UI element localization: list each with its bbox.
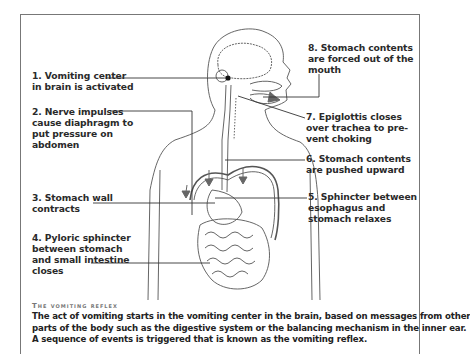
- label-6-contents-pushed-upward: 6. Stomach contents are pushed upward: [306, 153, 411, 175]
- label-line: 4. Pyloric sphincter: [32, 232, 131, 243]
- label-line: between stomach: [32, 243, 131, 254]
- label-line: in brain is activated: [32, 81, 133, 92]
- vomiting-center-dot: [225, 75, 230, 80]
- label-line: and small intestine: [32, 254, 131, 265]
- label-4-pyloric-sphincter: 4. Pyloric sphincter between stomach and…: [32, 232, 131, 276]
- caption-body: The act of vomiting starts in the vomiti…: [32, 311, 417, 346]
- label-7-epiglottis: 7. Epiglottis closes over trachea to pre…: [306, 111, 408, 144]
- caption-line: parts of the body such as the digestive …: [32, 323, 417, 335]
- label-line: cause diaphragm to: [32, 117, 133, 128]
- label-line: over trachea to pre-: [306, 122, 408, 133]
- label-line: esophagus and: [308, 202, 417, 213]
- caption-line: The act of vomiting starts in the vomiti…: [32, 311, 417, 323]
- label-line: 5. Sphincter between: [308, 191, 417, 202]
- label-line: contracts: [32, 203, 113, 214]
- label-3-stomach-wall: 3. Stomach wall contracts: [32, 192, 113, 214]
- caption-heading: The vomiting reflex: [32, 302, 118, 310]
- label-line: 3. Stomach wall: [32, 192, 113, 203]
- label-line: mouth: [308, 64, 413, 75]
- label-5-esophageal-sphincter: 5. Sphincter between esophagus and stoma…: [308, 191, 417, 224]
- label-line: vent choking: [306, 133, 408, 144]
- caption-line: A sequence of events is triggered that i…: [32, 334, 417, 346]
- label-line: 7. Epiglottis closes: [306, 111, 408, 122]
- label-line: put pressure on: [32, 128, 133, 139]
- label-line: 1. Vomiting center: [32, 70, 133, 81]
- label-2-nerve-impulses: 2. Nerve impulses cause diaphragm to put…: [32, 106, 133, 150]
- label-line: are pushed upward: [306, 164, 411, 175]
- label-line: 8. Stomach contents: [308, 42, 413, 53]
- label-1-vomiting-center: 1. Vomiting center in brain is activated: [32, 70, 133, 92]
- label-line: are forced out of the: [308, 53, 413, 64]
- label-line: closes: [32, 265, 131, 276]
- label-line: abdomen: [32, 139, 133, 150]
- label-line: 2. Nerve impulses: [32, 106, 133, 117]
- label-8-forced-out-mouth: 8. Stomach contents are forced out of th…: [308, 42, 413, 75]
- label-line: 6. Stomach contents: [306, 153, 411, 164]
- label-line: stomach relaxes: [308, 213, 417, 224]
